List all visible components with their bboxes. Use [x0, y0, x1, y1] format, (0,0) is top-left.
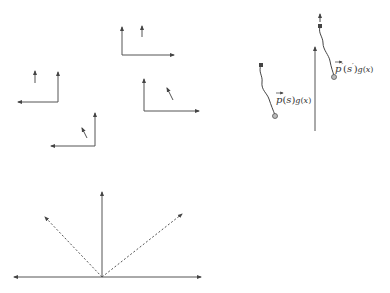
- diagram-canvas: p(s)g(x) p′(s′)g(x): [0, 0, 390, 293]
- path-diagram: p(s)g(x) p′(s′)g(x): [259, 14, 373, 131]
- path-right-curve: [320, 27, 334, 76]
- dashed-left-arrow: [45, 217, 102, 277]
- frame-d: [51, 113, 95, 146]
- frame-b: [18, 71, 58, 102]
- path-left: p(s)g(x): [259, 63, 311, 119]
- frame-c-small-arrow: [167, 88, 173, 100]
- path-left-end-circle: [273, 114, 278, 119]
- bottom-diagram: [14, 192, 201, 277]
- frame-a: [122, 26, 174, 55]
- path-left-label: p(s)g(x): [276, 94, 311, 105]
- path-right-end-circle: [332, 75, 337, 80]
- frame-c: [144, 79, 199, 111]
- dashed-right-arrow: [102, 214, 182, 277]
- path-left-start-point: [259, 63, 263, 67]
- path-right: p′(s′)g(x): [318, 14, 373, 80]
- path-right-label: p′(s′)g(x): [335, 62, 373, 74]
- frame-d-small-arrow: [82, 128, 87, 138]
- path-left-curve: [260, 65, 275, 115]
